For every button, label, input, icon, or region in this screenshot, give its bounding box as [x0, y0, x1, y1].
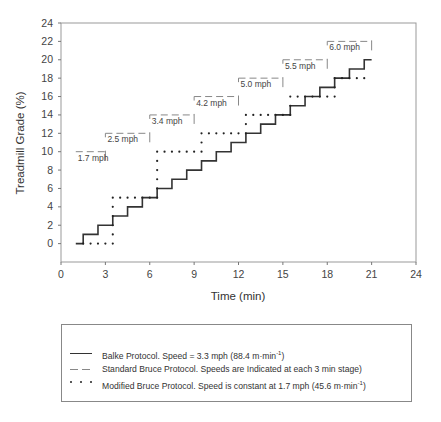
y-tick-label: 4	[47, 200, 53, 212]
modified-bruce-dot	[156, 169, 158, 171]
modified-bruce-dot	[341, 77, 343, 79]
modified-bruce-dot	[334, 77, 336, 79]
legend-item-modified-bruce: Modified Bruce Protocol. Speed is consta…	[70, 380, 366, 391]
dotted-line-swatch-icon	[70, 381, 92, 389]
modified-bruce-dot	[237, 132, 239, 134]
solid-line-swatch-icon	[70, 351, 92, 359]
modified-bruce-dot	[200, 141, 202, 143]
modified-bruce-dot	[230, 132, 232, 134]
legend-label: Standard Bruce Protocol. Speeds are Indi…	[102, 364, 362, 374]
modified-bruce-dot	[200, 132, 202, 134]
x-tick-label: 12	[233, 268, 245, 280]
x-axis-title: Time (min)	[211, 290, 266, 302]
modified-bruce-dot	[112, 243, 114, 245]
chart-plot: 02468101214161820222403691215182124 1.7 …	[0, 0, 441, 320]
modified-bruce-dot	[319, 95, 321, 97]
modified-bruce-dot	[215, 132, 217, 134]
modified-bruce-dot	[260, 114, 262, 116]
x-tick-label: 18	[321, 268, 333, 280]
modified-bruce-dot	[112, 197, 114, 199]
y-tick-label: 16	[41, 90, 53, 102]
y-tick-label: 24	[41, 17, 53, 29]
x-tick-label: 3	[102, 268, 108, 280]
modified-bruce-dot	[245, 114, 247, 116]
y-tick-label: 10	[41, 145, 53, 157]
modified-bruce-dot	[104, 243, 106, 245]
modified-bruce-dot	[311, 95, 313, 97]
modified-bruce-dot	[363, 77, 365, 79]
y-tick-label: 12	[41, 127, 53, 139]
stage-speed-label: 2.5 mph	[107, 134, 138, 144]
x-tick-label: 21	[366, 268, 378, 280]
y-tick-label: 20	[41, 53, 53, 65]
y-tick-label: 0	[47, 237, 53, 249]
dashed-line-swatch-icon	[70, 365, 92, 373]
legend-label: Modified Bruce Protocol. Speed is consta…	[102, 380, 366, 391]
modified-bruce-dot	[112, 224, 114, 226]
modified-bruce-dot	[156, 187, 158, 189]
modified-bruce-dot	[297, 95, 299, 97]
stage-speed-label: 5.0 mph	[241, 79, 272, 89]
modified-bruce-dot	[208, 132, 210, 134]
modified-bruce-dot	[245, 132, 247, 134]
modified-bruce-dot	[200, 151, 202, 153]
y-tick-label: 8	[47, 164, 53, 176]
modified-bruce-dot	[156, 151, 158, 153]
modified-bruce-dot	[163, 151, 165, 153]
modified-bruce-dot	[156, 178, 158, 180]
x-tick-label: 0	[58, 268, 64, 280]
modified-bruce-dot	[282, 114, 284, 116]
modified-bruce-dot	[326, 95, 328, 97]
x-tick-label: 24	[410, 268, 422, 280]
stage-speed-label: 5.5 mph	[285, 61, 316, 71]
modified-bruce-dot	[289, 114, 291, 116]
modified-bruce-dot	[141, 197, 143, 199]
modified-bruce-dot	[97, 243, 99, 245]
modified-bruce-dot	[334, 95, 336, 97]
legend-item-balke: Balke Protocol. Speed = 3.3 mph (88.4 m·…	[70, 350, 284, 361]
modified-bruce-dot	[149, 197, 151, 199]
modified-bruce-dot	[134, 197, 136, 199]
y-tick-label: 14	[41, 108, 53, 120]
modified-bruce-dot	[223, 132, 225, 134]
modified-bruce-dot	[304, 95, 306, 97]
modified-bruce-dot	[156, 197, 158, 199]
stage-labels: 1.7 mph2.5 mph3.4 mph4.2 mph5.0 mph5.5 m…	[78, 42, 360, 162]
modified-bruce-dot	[178, 151, 180, 153]
y-tick-label: 18	[41, 72, 53, 84]
modified-bruce-dot	[348, 77, 350, 79]
legend-label: Balke Protocol. Speed = 3.3 mph (88.4 m·…	[102, 350, 284, 361]
modified-bruce-dot	[82, 243, 84, 245]
modified-bruce-dot	[112, 206, 114, 208]
modified-bruce-dot	[112, 233, 114, 235]
modified-bruce-dot	[274, 114, 276, 116]
modified-bruce-dot	[89, 243, 91, 245]
y-tick-label: 6	[47, 182, 53, 194]
stage-speed-label: 3.4 mph	[152, 116, 183, 126]
modified-bruce-dot	[252, 114, 254, 116]
modified-bruce-dot	[356, 77, 358, 79]
modified-bruce-dot	[186, 151, 188, 153]
stage-speed-label: 1.7 mph	[78, 153, 109, 163]
modified-bruce-dot	[289, 105, 291, 107]
y-axis-title: Treadmill Grade (%)	[14, 91, 26, 194]
modified-bruce-dot	[334, 86, 336, 88]
legend-item-standard-bruce: Standard Bruce Protocol. Speeds are Indi…	[70, 364, 362, 374]
modified-bruce-dot	[126, 197, 128, 199]
modified-bruce-dot	[119, 197, 121, 199]
y-tick-label: 2	[47, 219, 53, 231]
modified-bruce-dot	[267, 114, 269, 116]
modified-bruce-dot	[193, 151, 195, 153]
x-tick-label: 15	[277, 268, 289, 280]
stage-speed-label: 6.0 mph	[329, 42, 360, 52]
modified-bruce-dot	[156, 160, 158, 162]
modified-bruce-dot	[112, 215, 114, 217]
legend: Balke Protocol. Speed = 3.3 mph (88.4 m·…	[61, 324, 412, 402]
stage-speed-label: 4.2 mph	[196, 98, 227, 108]
y-tick-label: 22	[41, 35, 53, 47]
modified-bruce-dot	[171, 151, 173, 153]
balke-line	[76, 60, 372, 244]
modified-bruce-dot	[289, 95, 291, 97]
modified-bruce-dot	[245, 123, 247, 125]
x-tick-label: 9	[191, 268, 197, 280]
